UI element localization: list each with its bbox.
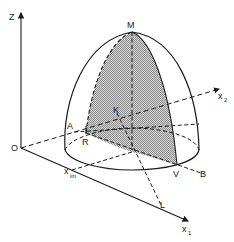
xim-label: x	[64, 166, 69, 176]
point-a-label: A	[67, 121, 73, 131]
diagram-canvas: Z O x 1 x 2 M K A R V B L x im	[0, 0, 234, 242]
point-m-label: M	[127, 20, 135, 30]
point-b-label: B	[200, 169, 206, 179]
x2-axis-subscript: 2	[224, 97, 228, 103]
point-k-label: K	[113, 105, 119, 115]
x1-axis-label: x	[182, 224, 187, 234]
point-r-label: R	[82, 137, 89, 147]
origin-label: O	[11, 143, 18, 153]
dome-surface-diagram: Z O x 1 x 2 M K A R V B L x im	[0, 0, 234, 242]
z-axis-label: Z	[9, 12, 15, 22]
x1-axis-subscript: 1	[188, 230, 192, 236]
point-l-label: L	[160, 200, 165, 210]
x2-axis-label: x	[218, 91, 223, 101]
point-v-label: V	[173, 169, 179, 179]
xim-subscript: im	[70, 173, 76, 179]
base-ellipse-front	[65, 150, 199, 170]
